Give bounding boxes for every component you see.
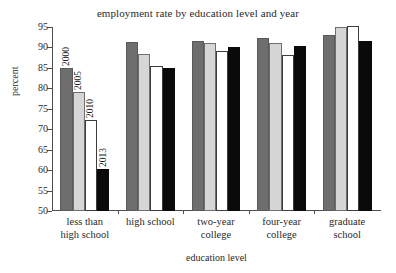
year-annotation-2013: 2013 (98, 148, 108, 167)
bar-2000-two-year-college[interactable] (192, 41, 204, 212)
bar-2013-two-year-college[interactable] (228, 47, 240, 211)
category-label-graduate-school: graduateschool (314, 215, 380, 241)
bar-2010-four-year-college[interactable] (282, 55, 294, 211)
y-axis-title: percent (9, 67, 20, 96)
category-label-less-than-high-school: less thanhigh school (52, 215, 118, 241)
bar-2000-four-year-college[interactable] (257, 38, 269, 211)
category-label-four-year-college: four-yearcollege (249, 215, 315, 241)
bar-2000-graduate-school[interactable] (323, 35, 335, 211)
bar-group: 2000200520102013 (60, 27, 109, 211)
category-label-line: school (314, 228, 380, 241)
x-axis-title: education level (52, 252, 381, 263)
y-tick-label: 55 (38, 184, 48, 197)
y-tick-label: 50 (38, 204, 48, 217)
y-tick-label: 95 (38, 20, 48, 33)
bar-2013-graduate-school[interactable] (359, 41, 371, 211)
year-annotation-2010: 2010 (85, 99, 95, 118)
bar-2000-less-than-high-school[interactable] (60, 68, 72, 211)
year-annotation-2000: 2000 (61, 47, 71, 66)
y-tick-label: 90 (38, 40, 48, 53)
bar-2010-high-school[interactable] (150, 66, 162, 211)
bar-2010-two-year-college[interactable] (216, 51, 228, 211)
bar-2013-less-than-high-school[interactable] (97, 169, 109, 211)
bar-2013-high-school[interactable] (163, 68, 175, 211)
y-tick-label: 65 (38, 143, 48, 156)
y-tick-label: 70 (38, 122, 48, 135)
category-label-line: two-year (183, 215, 249, 228)
bar-2005-graduate-school[interactable] (335, 27, 347, 211)
category-label-line: high school (52, 228, 118, 241)
category-label-line: four-year (249, 215, 315, 228)
bar-group (192, 27, 241, 211)
bar-2005-four-year-college[interactable] (269, 43, 281, 211)
category-label-line: less than (52, 215, 118, 228)
plot-area: 2000200520102013 (52, 27, 380, 211)
bar-group (257, 27, 306, 211)
year-annotation-2005: 2005 (73, 71, 83, 90)
bar-2005-two-year-college[interactable] (204, 43, 216, 211)
bar-2005-high-school[interactable] (138, 54, 150, 211)
category-label-line: high school (118, 215, 184, 228)
y-tick-label: 80 (38, 81, 48, 94)
bar-2013-four-year-college[interactable] (294, 46, 306, 211)
category-label-line: college (183, 228, 249, 241)
category-label-line: college (249, 228, 315, 241)
category-label-high-school: high school (118, 215, 184, 228)
y-tick-label: 75 (38, 102, 48, 115)
category-label-two-year-college: two-yearcollege (183, 215, 249, 241)
chart-title: employment rate by education level and y… (0, 7, 396, 19)
bar-chart: employment rate by education level and y… (0, 0, 396, 273)
bar-group (323, 27, 372, 211)
bar-group (126, 27, 175, 211)
y-tick-label: 85 (38, 61, 48, 74)
bar-2005-less-than-high-school[interactable] (73, 92, 85, 211)
bar-2000-high-school[interactable] (126, 42, 138, 211)
y-tick-label: 60 (38, 163, 48, 176)
bar-2010-graduate-school[interactable] (347, 26, 359, 211)
bar-2010-less-than-high-school[interactable] (85, 120, 97, 211)
category-label-line: graduate (314, 215, 380, 228)
